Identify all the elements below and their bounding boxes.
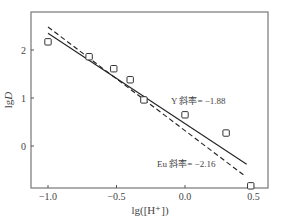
data-point-square	[182, 112, 188, 118]
y-tick-label: 0	[21, 141, 26, 152]
data-point-square	[111, 66, 117, 72]
x-tick-label: −1.0	[39, 191, 57, 202]
x-axis-label: lg([H⁺])	[131, 204, 168, 217]
annotation-y-slope: Y 斜率= −1.88	[171, 95, 226, 106]
annotation-eu-slope: Eu 斜率= −2.16	[157, 158, 216, 169]
y-tick-label: 2	[21, 45, 26, 56]
data-point-square	[141, 97, 147, 103]
y-tick-label: 1	[21, 93, 26, 104]
data-point-square	[45, 39, 51, 45]
y-axis-label-var: D	[2, 92, 14, 101]
chart: −1.0−0.50.00.5012 Y 斜率= −1.88 Eu 斜率= −2.…	[0, 0, 282, 224]
data-point-square	[127, 77, 133, 83]
y-axis-label: lgD	[2, 92, 14, 109]
axis-ticks: −1.0−0.50.00.5012	[21, 45, 260, 203]
x-tick-label: 0.0	[179, 191, 192, 202]
data-point-square	[223, 130, 229, 136]
data-point-square	[248, 183, 254, 189]
data-point-square	[86, 54, 92, 60]
data-points	[45, 39, 254, 189]
x-tick-label: −0.5	[107, 191, 125, 202]
x-tick-label: 0.5	[247, 191, 260, 202]
chart-svg: −1.0−0.50.00.5012 Y 斜率= −1.88 Eu 斜率= −2.…	[0, 0, 282, 224]
